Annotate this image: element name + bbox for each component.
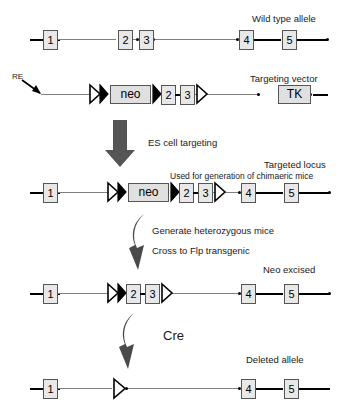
exon-box-5-neo-excised: 5 bbox=[284, 284, 299, 304]
residual-loxp-triangle-icon bbox=[113, 378, 127, 399]
es-cell-targeting-arrow-icon bbox=[105, 120, 139, 168]
exon-box-5-deleted: 5 bbox=[284, 379, 299, 399]
exon-box-1-neo-excised: 1 bbox=[43, 284, 58, 304]
wt-line-intron-4 bbox=[254, 39, 281, 41]
wt-site-dot-d bbox=[326, 38, 329, 41]
wt-line-intron-1 bbox=[57, 39, 116, 40]
loxp-site-triangle-icon-neo-excised bbox=[161, 283, 173, 303]
loxp-site-triangle-icon bbox=[196, 84, 208, 104]
tl-site-dot-b bbox=[328, 191, 331, 194]
tl-line-intron-4 bbox=[256, 192, 283, 194]
targeted-locus-label: Targeted locus bbox=[264, 159, 326, 170]
tl-line-intron-1 bbox=[57, 192, 109, 193]
targeted-locus-sublabel: Used for generation of chimaeric mice bbox=[170, 171, 313, 182]
ne-line-right-thick bbox=[299, 293, 330, 295]
da-line-intron-1 bbox=[57, 388, 112, 389]
exon-box-4-neo-excised: 4 bbox=[241, 284, 256, 304]
neo-cassette-box: neo bbox=[110, 85, 151, 104]
targeting-vector-label: Targeting vector bbox=[250, 73, 318, 84]
cross-to-flp-label: Cross to Flp transgenic bbox=[152, 245, 250, 256]
exon-box-1-deleted: 1 bbox=[43, 379, 58, 399]
generate-heterozygous-curved-arrow-icon bbox=[128, 212, 162, 274]
exon-box-3-neo-excised: 3 bbox=[145, 284, 160, 304]
exon-box-4: 4 bbox=[239, 30, 254, 50]
wt-line-right-thick bbox=[297, 39, 328, 41]
ne-line-intron-1 bbox=[57, 293, 109, 294]
wt-line-intron-3 bbox=[155, 39, 238, 40]
deleted-allele-label: Deleted allele bbox=[246, 354, 304, 365]
es-cell-targeting-label: ES cell targeting bbox=[148, 137, 217, 148]
frt-site-triangle-filled-icon-targeted bbox=[117, 182, 127, 202]
tv-line-right bbox=[313, 94, 328, 96]
exon-box-4-deleted: 4 bbox=[241, 379, 256, 399]
da-line-right-thick bbox=[299, 388, 330, 390]
exon-box-3-targeted: 3 bbox=[198, 183, 213, 203]
exon-box-2: 2 bbox=[118, 30, 133, 50]
tv-line-left bbox=[41, 94, 91, 95]
tl-line-right-thick bbox=[299, 192, 330, 194]
figure-canvas: Wild type allele 1 2 3 4 5 RE Targeting … bbox=[0, 0, 359, 416]
exon-box-5-targeted: 5 bbox=[284, 183, 299, 203]
re-pointer-arrow-icon bbox=[20, 78, 50, 98]
ne-line-intron-4 bbox=[256, 293, 283, 295]
tv-site-dot-a bbox=[257, 93, 260, 96]
exon-box-2-targeted: 2 bbox=[179, 183, 194, 203]
neo-cassette-box-targeted: neo bbox=[128, 183, 169, 202]
cre-label: Cre bbox=[163, 330, 184, 341]
frt-site-triangle-filled-icon bbox=[99, 84, 109, 104]
exon-box-3-vector: 3 bbox=[180, 85, 195, 105]
exon-box-1-targeted: 1 bbox=[43, 183, 58, 203]
exon-box-3: 3 bbox=[139, 30, 154, 50]
loxp-site-triangle-icon-targeted bbox=[214, 182, 226, 202]
da-line-intron-2 bbox=[127, 388, 240, 389]
exon-box-2-vector: 2 bbox=[161, 85, 176, 105]
generate-heterozygous-label: Generate heterozygous mice bbox=[152, 225, 274, 236]
exon-box-1: 1 bbox=[43, 30, 58, 50]
cre-curved-arrow-icon bbox=[118, 311, 152, 373]
tk-cassette-box: TK bbox=[278, 85, 311, 104]
exon-box-2-neo-excised: 2 bbox=[126, 284, 141, 304]
da-line-intron-4 bbox=[256, 388, 283, 390]
ne-line-intron-3 bbox=[166, 293, 240, 294]
exon-box-4-targeted: 4 bbox=[241, 183, 256, 203]
ne-site-dot-b bbox=[328, 292, 331, 295]
wild-type-allele-label: Wild type allele bbox=[252, 13, 316, 24]
neo-excised-label: Neo excised bbox=[263, 264, 315, 275]
exon-box-5: 5 bbox=[282, 30, 297, 50]
